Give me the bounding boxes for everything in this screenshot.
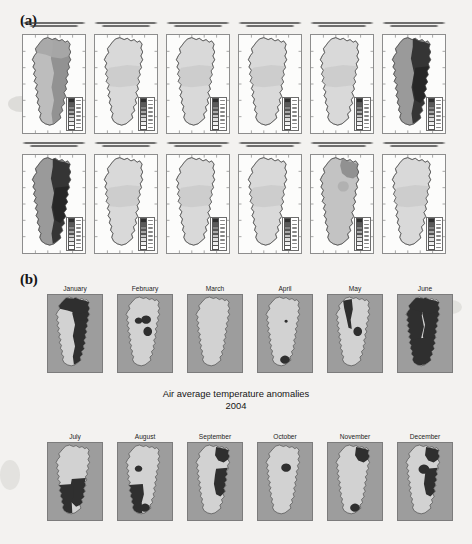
map-legend	[210, 97, 227, 131]
legend-value	[148, 111, 153, 113]
map-frame	[117, 442, 173, 521]
month-label: May	[320, 284, 390, 293]
legend-value	[148, 119, 153, 121]
map-legend	[138, 217, 155, 251]
legend-value	[436, 115, 441, 117]
map-frame	[22, 34, 86, 134]
legend-row	[140, 126, 153, 129]
legend-value	[76, 224, 81, 226]
panel-b-map-july: July	[40, 432, 110, 521]
legend-value	[220, 127, 225, 129]
panel-a-map-february	[90, 22, 162, 138]
legend-value	[364, 100, 369, 102]
map-title-line-1	[238, 22, 302, 24]
legend-value	[292, 127, 297, 129]
map-title	[310, 22, 374, 32]
map-legend	[354, 97, 371, 131]
map-title	[166, 22, 230, 32]
legend-value	[76, 127, 81, 129]
map-title-line-2	[317, 25, 367, 27]
map-title-line-2	[317, 145, 367, 147]
map-frame	[397, 294, 453, 373]
map-title-line-1	[22, 22, 86, 24]
legend-value	[436, 235, 441, 237]
legend-value	[364, 227, 369, 229]
legend-row	[428, 246, 441, 249]
map-title-line-1	[166, 142, 230, 144]
legend-value	[292, 123, 297, 125]
map-legend	[426, 97, 443, 131]
map-frame	[166, 34, 230, 134]
panel-b-map-december: December	[390, 432, 460, 521]
map-title-line-2	[245, 25, 295, 27]
map-title-line-1	[94, 22, 158, 24]
legend-value	[76, 239, 81, 241]
panel-a-row-1	[0, 22, 472, 142]
panel-b-map-january: January	[40, 284, 110, 373]
legend-value	[220, 227, 225, 229]
legend-value	[364, 231, 369, 233]
legend-value	[220, 247, 225, 249]
legend-value	[292, 235, 297, 237]
legend-value	[292, 243, 297, 245]
map-legend	[354, 217, 371, 251]
map-title-line-1	[94, 142, 158, 144]
map-legend	[282, 97, 299, 131]
map-title	[22, 22, 86, 32]
map-title-line-2	[29, 145, 79, 147]
legend-value	[76, 123, 81, 125]
panel-a-map-october	[234, 142, 306, 258]
map-frame	[187, 442, 243, 521]
legend-value	[292, 224, 297, 226]
legend-value	[364, 111, 369, 113]
map-frame	[327, 442, 383, 521]
legend-value	[292, 239, 297, 241]
legend-value	[436, 243, 441, 245]
legend-value	[148, 115, 153, 117]
map-title-line-1	[310, 22, 374, 24]
month-label: September	[180, 432, 250, 441]
legend-value	[220, 220, 225, 222]
legend-value	[220, 243, 225, 245]
legend-value	[292, 247, 297, 249]
month-label: February	[110, 284, 180, 293]
legend-value	[220, 104, 225, 106]
legend-value	[292, 107, 297, 109]
legend-swatch	[356, 245, 363, 250]
map-frame	[382, 34, 446, 134]
legend-row	[212, 126, 225, 129]
panel-a-map-june	[378, 22, 450, 138]
legend-swatch	[212, 245, 219, 250]
map-frame	[257, 294, 313, 373]
panel-b-map-october: October	[250, 432, 320, 521]
legend-swatch	[356, 125, 363, 130]
map-frame	[47, 294, 103, 373]
legend-value	[436, 239, 441, 241]
map-frame	[238, 154, 302, 254]
legend-value	[220, 123, 225, 125]
map-title-line-2	[101, 145, 151, 147]
legend-value	[76, 104, 81, 106]
figure-caption: Air average temperature anomalies 2004	[0, 388, 472, 412]
legend-value	[436, 227, 441, 229]
map-legend	[210, 217, 227, 251]
panel-b-row-2: July August September October	[0, 432, 472, 532]
legend-value	[364, 235, 369, 237]
map-title-line-1	[382, 22, 446, 24]
map-title-line-2	[389, 25, 439, 27]
map-title-line-1	[166, 22, 230, 24]
legend-value	[364, 243, 369, 245]
legend-swatch	[140, 125, 147, 130]
panel-b-map-march: March	[180, 284, 250, 373]
legend-value	[148, 247, 153, 249]
legend-row	[356, 126, 369, 129]
panel-b: January February March April	[0, 284, 472, 544]
panel-a-map-may	[306, 22, 378, 138]
map-legend	[426, 217, 443, 251]
legend-value	[76, 100, 81, 102]
legend-row	[68, 126, 81, 129]
map-frame	[47, 442, 103, 521]
map-frame	[117, 294, 173, 373]
legend-row	[356, 246, 369, 249]
legend-value	[292, 231, 297, 233]
